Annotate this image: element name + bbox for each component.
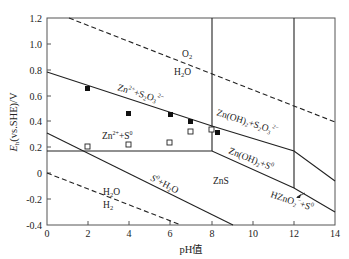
svg-text:0.8: 0.8 <box>30 65 43 76</box>
label-h2: H2 <box>103 200 113 211</box>
svg-text:6: 6 <box>168 228 173 239</box>
svg-text:8: 8 <box>210 228 215 239</box>
region-labels: O2 H2O Zn2++S2O32− Zn2++S0 Zn(OH)2+S2O32… <box>102 49 315 214</box>
svg-text:4: 4 <box>127 228 132 239</box>
svg-text:0.2: 0.2 <box>30 142 43 153</box>
y-axis <box>47 44 51 199</box>
svg-text:14: 14 <box>330 228 340 239</box>
x-tick-labels: 0 2 4 6 8 10 12 14 <box>45 228 341 239</box>
svg-text:1.2: 1.2 <box>30 13 43 24</box>
label-hzno2-s0: HZnO2−+S0 <box>269 188 315 213</box>
label-h2o-top: H2O <box>174 67 191 78</box>
label-o2: O2 <box>182 49 192 60</box>
svg-text:0.6: 0.6 <box>30 91 43 102</box>
s2o3-boundary-line <box>47 72 335 181</box>
y-tick-labels: 1.2 1.0 0.8 0.6 0.4 0.2 0 -0.2 -0.4 <box>26 13 42 231</box>
svg-text:-0.4: -0.4 <box>26 220 42 231</box>
s0-h2o-line <box>47 133 233 225</box>
label-h2o-bottom: H2O <box>103 187 120 198</box>
eh-ph-diagram: 1.2 1.0 0.8 0.6 0.4 0.2 0 -0.2 -0.4 0 2 … <box>0 0 349 259</box>
svg-text:0.4: 0.4 <box>30 116 43 127</box>
svg-text:10: 10 <box>248 228 258 239</box>
o2-h2o-line <box>69 18 335 122</box>
svg-text:0: 0 <box>37 168 42 179</box>
x-axis <box>88 221 294 225</box>
label-s0-h2o: S0+H2O <box>149 172 181 196</box>
label-znoh-s2o3: Zn(OH)2+S2O32− <box>215 105 280 137</box>
svg-text:1.0: 1.0 <box>30 39 43 50</box>
label-zns: ZnS <box>213 176 229 186</box>
y-axis-label: Eh(vs.SHE)/V <box>8 92 21 153</box>
svg-text:0: 0 <box>45 228 50 239</box>
label-zn-s0: Zn2++S0 <box>102 130 133 141</box>
svg-text:-0.2: -0.2 <box>26 194 42 205</box>
svg-text:2: 2 <box>86 228 91 239</box>
svg-text:12: 12 <box>289 228 299 239</box>
x-axis-label: pH值 <box>180 243 204 255</box>
